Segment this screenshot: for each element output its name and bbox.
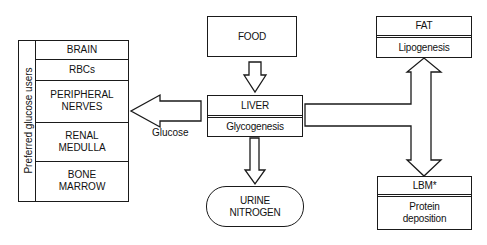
lbm-process: Protein deposition bbox=[378, 197, 471, 229]
item-renal-medulla: RENAL MEDULLA bbox=[36, 122, 128, 162]
liver-box: LIVER Glycogenesis bbox=[207, 95, 303, 137]
glucose-label: Glucose bbox=[152, 127, 189, 138]
fat-title: FAT bbox=[377, 17, 471, 35]
urine-nitrogen-box: URINE NITROGEN bbox=[206, 186, 304, 227]
panel-items: BRAIN RBCs PERIPHERAL NERVES RENAL MEDUL… bbox=[36, 41, 128, 201]
arrow-liver-to-urine bbox=[245, 138, 265, 184]
item-bone-marrow: BONE MARROW bbox=[36, 161, 128, 201]
fat-process: Lipogenesis bbox=[377, 38, 471, 57]
arrow-glucose-left bbox=[131, 95, 201, 127]
glucose-users-panel: Preferred glucose users BRAIN RBCs PERIP… bbox=[18, 40, 129, 202]
item-brain: BRAIN bbox=[36, 41, 128, 60]
panel-title-strip: Preferred glucose users bbox=[19, 41, 36, 201]
liver-process: Glycogenesis bbox=[208, 118, 302, 136]
arrow-liver-to-fat-lbm bbox=[305, 58, 441, 176]
item-rbcs: RBCs bbox=[36, 59, 128, 81]
food-box: FOOD bbox=[207, 16, 297, 57]
lbm-title: LBM* bbox=[378, 177, 471, 194]
fat-box: FAT Lipogenesis bbox=[376, 16, 472, 58]
panel-title: Preferred glucose users bbox=[23, 46, 34, 196]
liver-title: LIVER bbox=[208, 96, 302, 115]
lbm-box: LBM* Protein deposition bbox=[377, 176, 472, 230]
item-peripheral-nerves: PERIPHERAL NERVES bbox=[36, 80, 128, 123]
arrow-food-to-liver bbox=[244, 62, 266, 92]
